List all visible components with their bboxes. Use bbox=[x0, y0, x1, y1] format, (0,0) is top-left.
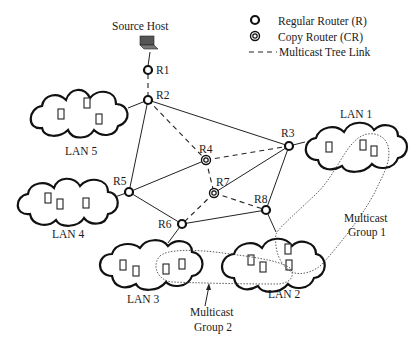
legend: Regular Router (R) Copy Router (CR) Mult… bbox=[249, 15, 371, 58]
legend-tree-link-label: Multicast Tree Link bbox=[279, 46, 371, 58]
host-icon bbox=[371, 146, 377, 156]
host-icon bbox=[83, 198, 89, 208]
router-r1[interactable] bbox=[144, 66, 152, 74]
link-r5-r4 bbox=[129, 160, 206, 192]
host-icon bbox=[84, 98, 90, 108]
router-r6[interactable] bbox=[178, 220, 186, 228]
host-icon bbox=[120, 260, 126, 270]
host-icon bbox=[286, 260, 292, 270]
multicast-network-diagram: R1 R2 R3 R4 R5 R6 R7 R8 LAN 5 LAN 4 LAN … bbox=[0, 0, 413, 341]
router-r8[interactable] bbox=[262, 206, 270, 214]
host-icon bbox=[45, 193, 51, 203]
group1-label-line1: Multicast bbox=[344, 212, 388, 224]
laptop-icon bbox=[140, 36, 158, 49]
router-label-r1: R1 bbox=[156, 64, 170, 76]
router-r5[interactable] bbox=[125, 188, 133, 196]
lan-label-2: LAN 2 bbox=[268, 288, 301, 300]
link-host-r1 bbox=[148, 52, 150, 66]
host-icon bbox=[133, 266, 139, 276]
router-label-r6: R6 bbox=[158, 218, 172, 230]
group2-label-line2: Group 2 bbox=[194, 321, 232, 334]
router-r7[interactable] bbox=[210, 189, 219, 198]
host-icon bbox=[326, 142, 332, 152]
source-host-label: Source Host bbox=[112, 20, 169, 32]
lan4-cloud bbox=[18, 179, 118, 226]
tree-r4-r3 bbox=[206, 146, 289, 160]
link-r3-r8 bbox=[266, 146, 289, 210]
host-icon bbox=[96, 114, 102, 124]
link-r2-r5 bbox=[129, 100, 148, 192]
host-icon bbox=[57, 199, 63, 209]
lan-label-4: LAN 4 bbox=[52, 228, 85, 240]
legend-regular-router-label: Regular Router (R) bbox=[278, 15, 367, 28]
host-icon bbox=[179, 259, 185, 269]
link-r2-r3 bbox=[148, 100, 289, 146]
router-label-r2: R2 bbox=[156, 89, 170, 101]
link-r5-r6 bbox=[129, 192, 182, 224]
host-icon bbox=[260, 262, 266, 272]
lan-label-3: LAN 3 bbox=[127, 293, 160, 305]
router-r4[interactable] bbox=[202, 156, 211, 165]
router-label-r8: R8 bbox=[254, 193, 268, 205]
router-r2[interactable] bbox=[144, 96, 152, 104]
lan5-cloud bbox=[31, 90, 128, 138]
host-icon bbox=[285, 244, 291, 254]
group1-label-line2: Group 1 bbox=[348, 226, 386, 239]
lan-label-1: LAN 1 bbox=[340, 108, 373, 120]
router-label-r4: R4 bbox=[199, 143, 213, 155]
router-label-r7: R7 bbox=[216, 176, 230, 188]
legend-copy-router-label: Copy Router (CR) bbox=[278, 31, 363, 44]
host-icon bbox=[58, 109, 64, 119]
group2-pointer-arrow bbox=[205, 283, 211, 306]
host-icon bbox=[360, 140, 366, 150]
host-icon bbox=[163, 264, 169, 274]
legend-copy-router-icon bbox=[251, 32, 260, 41]
group2-label-line1: Multicast bbox=[190, 306, 234, 318]
legend-regular-router-icon bbox=[251, 16, 259, 24]
lan-label-5: LAN 5 bbox=[65, 145, 98, 157]
router-label-r5: R5 bbox=[113, 175, 127, 187]
lan1-cloud bbox=[306, 123, 407, 172]
router-label-r3: R3 bbox=[281, 127, 295, 139]
router-r3[interactable] bbox=[285, 142, 293, 150]
